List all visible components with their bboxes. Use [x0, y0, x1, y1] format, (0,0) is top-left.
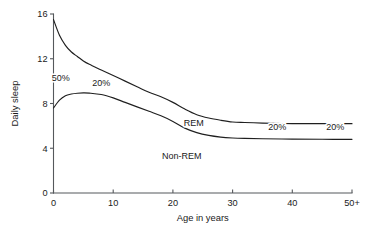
rem-fraction-childhood: 20% — [92, 78, 110, 88]
x-tick-label: 40 — [287, 198, 297, 208]
x-axis-tick-labels: 01020304050+ — [51, 198, 360, 208]
x-tick-label: 30 — [227, 198, 237, 208]
rem-region-label: REM — [184, 118, 204, 128]
x-axis-title: Age in years — [177, 212, 229, 223]
x-tick-label: 50+ — [344, 198, 360, 208]
y-tick-label: 12 — [37, 54, 47, 64]
x-tick-label: 0 — [51, 198, 56, 208]
chart-canvas: 0481216 01020304050+ Daily sleep Age in … — [0, 0, 370, 234]
y-tick-label: 4 — [42, 144, 47, 154]
x-tick-label: 10 — [108, 198, 118, 208]
non-rem-region-label: Non-REM — [162, 151, 202, 161]
y-tick-label: 8 — [42, 99, 47, 109]
rem-fraction-adult: 20% — [268, 122, 286, 132]
sleep-across-lifespan-chart: 0481216 01020304050+ Daily sleep Age in … — [0, 0, 370, 234]
y-tick-label: 0 — [42, 188, 47, 198]
rem-fraction-newborn: 50% — [52, 73, 70, 83]
x-tick-label: 20 — [168, 198, 178, 208]
chart-annotations: 50%50%20%20%REMREM20%20%20%20%Non-REMNon… — [52, 73, 345, 161]
axes — [50, 14, 352, 193]
total-sleep-curve — [54, 20, 353, 124]
y-axis-title: Daily sleep — [9, 81, 20, 127]
y-tick-label: 16 — [37, 9, 47, 19]
rem-fraction-older-adult: 20% — [326, 122, 344, 132]
y-axis-tick-labels: 0481216 — [37, 9, 47, 198]
